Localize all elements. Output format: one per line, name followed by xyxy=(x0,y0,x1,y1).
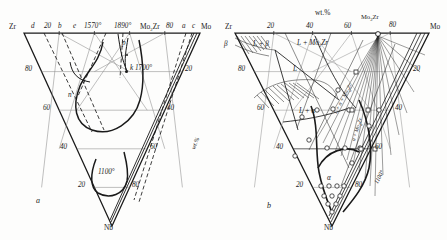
compound-label-mo2zr-a: Mo2Zr xyxy=(140,23,160,33)
top-tick-80-b: 80 xyxy=(389,22,396,29)
corner-label-zr-b: Zr xyxy=(225,23,232,30)
right-tick-20-a: 20 xyxy=(185,66,192,73)
right-tick-60-a: 60 xyxy=(150,144,157,151)
tick-label-80-a: 80 xyxy=(166,23,173,30)
top-tick-60-b: 60 xyxy=(344,23,351,30)
corner-label-mo-a: Mo xyxy=(201,23,211,30)
l-mo2zr-tail-b: Zr xyxy=(321,39,328,47)
phase-label-l-b: L xyxy=(293,66,297,73)
right-tick-40-a: 40 xyxy=(167,105,174,112)
grid-a xyxy=(42,33,183,187)
panel-a: Zr d 20 b e 1570° 1890° Mo2Zr 80 a c Mo … xyxy=(0,0,224,240)
left-tick-60-b: 60 xyxy=(257,105,264,112)
corner-label-mo-b: Mo xyxy=(430,23,440,30)
right-tick-80-a: 80 xyxy=(132,182,139,189)
mo2zr-mo-a: Mo xyxy=(140,22,150,31)
top-tick-20-b: 20 xyxy=(267,23,274,30)
right-edge-double-b xyxy=(329,33,425,222)
left-tick-80-a: 80 xyxy=(25,66,32,73)
left-tick-40-a: 40 xyxy=(60,144,67,151)
tick-label-d-a: d xyxy=(31,23,35,30)
corner-label-nb-b: Nb xyxy=(324,224,333,231)
temp-label-1570-a: 1570° xyxy=(84,23,101,30)
panel-b-diagram xyxy=(223,0,447,240)
right-tick-40-b: 40 xyxy=(395,105,402,112)
compound-label-mo2zr-b: Mo2Zr xyxy=(361,14,379,23)
phase-label-l-beta-b: L + β xyxy=(253,41,269,48)
corner-label-nb-a: Nb xyxy=(104,224,113,231)
tick-label-b-a: b xyxy=(58,23,62,30)
point-label-p-a: p xyxy=(122,40,126,47)
left-tick-60-a: 60 xyxy=(43,105,50,112)
liquidus-boundaries-b xyxy=(275,36,356,130)
tick-label-c-a: c xyxy=(192,23,195,30)
isotherm-label-a: 1100° xyxy=(98,169,115,176)
mo2zr-zr-a: Zr xyxy=(153,22,160,31)
left-tick-20-a: 20 xyxy=(78,182,85,189)
right-tick-80-b: 80 xyxy=(355,182,362,189)
phase-label-l-alpha-b: L + α xyxy=(299,108,315,115)
left-tick-80-b: 80 xyxy=(238,66,245,73)
right-tick-60-b: 60 xyxy=(375,144,382,151)
phase-label-beta-b: β xyxy=(224,41,228,48)
temp-label-1890-a: 1890° xyxy=(114,23,131,30)
figure-root: Zr d 20 b e 1570° 1890° Mo2Zr 80 a c Mo … xyxy=(0,0,447,240)
tick-label-a-a: a xyxy=(182,23,186,30)
point-label-n-a: n xyxy=(68,92,72,99)
panel-b: wt.% Zr 20 40 60 Mo2Zr 80 Mo 80 60 40 20… xyxy=(223,0,447,240)
panel-caption-a: a xyxy=(36,197,40,205)
left-tick-40-b: 40 xyxy=(276,144,283,151)
right-tick-20-b: 20 xyxy=(413,66,420,73)
top-tick-40-b: 40 xyxy=(306,23,313,30)
panel-caption-b: b xyxy=(267,202,271,210)
tick-label-e-a: e xyxy=(73,23,76,30)
corner-label-zr-a: Zr xyxy=(9,23,16,30)
l-alpha-hatch-b xyxy=(254,80,338,108)
point-label-k-a: k 1700° xyxy=(130,65,152,72)
panel-b-title: wt.% xyxy=(315,9,330,16)
panel-a-diagram xyxy=(0,0,224,240)
phase-label-alpha-b: α xyxy=(327,175,331,182)
tick-label-20-a: 20 xyxy=(44,23,51,30)
l-mo2zr-head-b: L + Mo xyxy=(297,39,319,47)
left-tick-20-b: 20 xyxy=(296,182,303,189)
compound-node-b xyxy=(376,32,381,37)
phase-label-l-mo2zr-b: L + Mo2Zr xyxy=(297,40,328,49)
